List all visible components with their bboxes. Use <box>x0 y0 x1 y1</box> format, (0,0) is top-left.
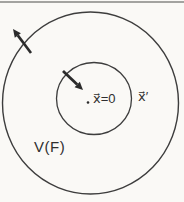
region-label: V(F) <box>34 139 65 154</box>
inward-arrow-icon <box>63 71 83 90</box>
diagram-canvas: x⃗=0 x⃗′ V(F) <box>0 0 184 202</box>
center-label: x⃗=0 <box>93 92 116 105</box>
center-point-dot <box>87 101 90 104</box>
outward-arrow-icon <box>13 29 31 53</box>
point-label: x⃗′ <box>138 90 148 103</box>
outer-circle <box>3 12 179 194</box>
diagram-drawing <box>0 0 184 202</box>
